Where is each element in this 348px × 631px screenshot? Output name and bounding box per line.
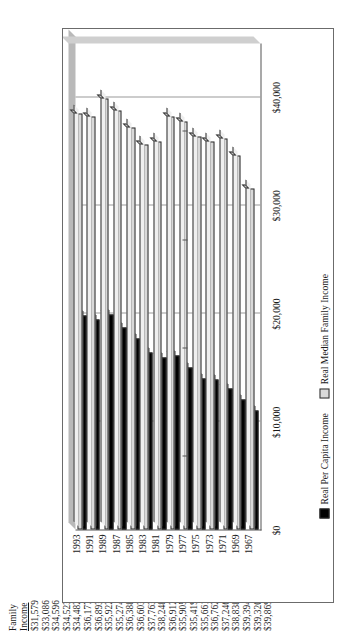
bar-dark <box>214 379 218 529</box>
bar-dark <box>240 399 244 529</box>
bar-light <box>104 98 108 529</box>
bar-dark <box>95 319 99 529</box>
bar-light <box>249 188 253 529</box>
plot-area: $0$10,000$20,000$30,000$40,000 196719691… <box>75 43 261 530</box>
family-income-value: $34,596 <box>52 600 61 631</box>
axis-tick-label: $20,000 <box>270 298 281 329</box>
axis-tick-label: $30,000 <box>270 190 281 221</box>
category-label: 1985 <box>123 534 134 598</box>
chart-wall <box>75 43 261 530</box>
bar-light <box>236 155 240 529</box>
bar-dark <box>121 327 125 529</box>
bar-dark <box>201 378 205 529</box>
legend-swatch-per-capita <box>319 508 329 518</box>
bar-light <box>183 121 187 529</box>
category-label: 1981 <box>150 534 161 598</box>
category-label: 1971 <box>216 534 227 598</box>
bar-light <box>90 116 94 529</box>
axis-tick <box>182 239 187 240</box>
axis-tick <box>182 455 187 456</box>
bar-light <box>130 127 134 529</box>
family-income-value: $34,482 <box>73 600 82 631</box>
category-label: 1975 <box>190 534 201 598</box>
bar-light <box>209 141 213 529</box>
family-income-value: $34,523 <box>63 600 72 631</box>
bar-dark <box>82 315 86 529</box>
category-label: 1969 <box>230 534 241 598</box>
bar-light <box>143 144 147 529</box>
legend-label-median-family: Real Median Family Income <box>318 274 329 384</box>
bar-light <box>117 110 121 529</box>
category-label: 1987 <box>110 534 121 598</box>
chart-rotation-wrapper: $0$10,000$20,000$30,000$40,000 196719691… <box>63 29 335 604</box>
bar-dark <box>148 352 152 529</box>
bar-light <box>157 141 161 529</box>
chart-frame: $0$10,000$20,000$30,000$40,000 196719691… <box>62 28 334 603</box>
column-header-line1: Family <box>9 604 18 631</box>
bar-dark <box>135 338 139 529</box>
family-income-value: $39,869 <box>264 600 273 631</box>
family-income-value: $31,579 <box>31 600 40 631</box>
bar-light <box>196 136 200 529</box>
bar-dark <box>108 314 112 529</box>
category-label: 1983 <box>137 534 148 598</box>
family-income-value: $35,905 <box>179 600 188 631</box>
category-label: 1977 <box>176 534 187 598</box>
family-income-value: $36,177 <box>84 600 93 631</box>
column-header-line2: Income <box>20 603 29 631</box>
family-income-value: $33,086 <box>42 600 51 631</box>
bar-light <box>223 138 227 529</box>
bar-dark <box>187 367 191 529</box>
bar-light <box>77 113 81 529</box>
axis-tick <box>182 347 187 348</box>
family-income-value: $37,763 <box>148 600 157 631</box>
family-income-value: $35,661 <box>201 600 210 631</box>
legend-label-per-capita: Real Per Capita Income <box>318 413 329 504</box>
axis-tick <box>182 130 187 131</box>
family-income-value: $39,320 <box>254 600 263 631</box>
axis-tick-label: $40,000 <box>270 82 281 113</box>
family-income-value: $35,922 <box>105 600 114 631</box>
family-income-value: $37,246 <box>222 600 231 631</box>
family-income-value: $38,838 <box>232 600 241 631</box>
family-income-value: $36,912 <box>169 600 178 631</box>
chart-legend: Real Per Capita Income Real Median Famil… <box>318 274 329 518</box>
category-label: 1979 <box>163 534 174 598</box>
bar-light <box>170 116 174 529</box>
chart-wall-right-face <box>63 36 260 43</box>
bar-dark <box>227 388 231 529</box>
family-income-value: $36,893 <box>95 600 104 631</box>
bar-dark <box>254 410 258 529</box>
bar-dark <box>174 355 178 529</box>
category-label: 1989 <box>97 534 108 598</box>
category-label: 1991 <box>83 534 94 598</box>
category-label: 1967 <box>243 534 254 598</box>
category-label: 1993 <box>70 534 81 598</box>
axis-tick-label: $0 <box>270 525 281 535</box>
bar-chart: $0$10,000$20,000$30,000$40,000 196719691… <box>63 29 335 604</box>
family-income-value: $38,248 <box>158 600 167 631</box>
axis-tick-label: $10,000 <box>270 406 281 437</box>
bar-dark <box>161 357 165 529</box>
family-income-value: $36,762 <box>211 600 220 631</box>
family-income-value: $35,419 <box>190 600 199 631</box>
family-income-value: $35,274 <box>116 600 125 631</box>
category-label: 1973 <box>203 534 214 598</box>
family-income-value: $36,388 <box>126 600 135 631</box>
family-income-value: $39,394 <box>243 600 252 631</box>
family-income-column: Family Income $31,579$33,086$34,596$34,5… <box>0 0 60 631</box>
legend-swatch-median-family <box>319 388 329 398</box>
family-income-value: $36,603 <box>137 600 146 631</box>
